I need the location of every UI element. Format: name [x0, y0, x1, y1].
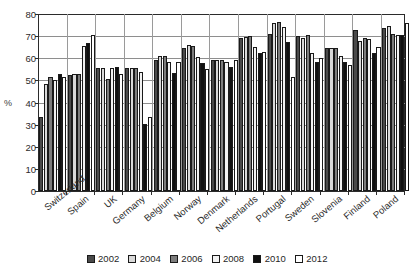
bar	[315, 62, 319, 191]
y-axis-tickmark	[35, 125, 39, 126]
bar	[239, 38, 243, 191]
y-axis-tick-labels: 01020304050607080	[0, 0, 36, 276]
bar-group	[381, 14, 410, 191]
bar	[353, 30, 357, 192]
bar	[391, 34, 395, 191]
bar-group	[352, 14, 381, 191]
bar	[296, 36, 300, 191]
bar	[167, 62, 171, 191]
legend-label: 2010	[265, 253, 286, 264]
legend-item[interactable]: 2008	[212, 253, 245, 264]
bar	[86, 43, 90, 191]
bar-group	[324, 14, 353, 191]
plot-area	[38, 14, 405, 192]
bar	[358, 41, 362, 191]
y-axis-tickmark	[35, 103, 39, 104]
bar-groups	[39, 14, 405, 191]
y-axis-tickmark	[35, 36, 39, 37]
bar	[363, 38, 367, 191]
bar	[68, 75, 72, 191]
bar-group	[39, 14, 67, 191]
bar	[301, 38, 305, 191]
bar	[191, 46, 195, 191]
bar	[115, 67, 119, 191]
bar	[82, 46, 86, 191]
bar	[220, 60, 224, 191]
legend-item[interactable]: 2006	[170, 253, 203, 264]
bar	[372, 53, 376, 191]
legend-item[interactable]: 2012	[295, 253, 328, 264]
legend-item[interactable]: 2004	[128, 253, 161, 264]
y-axis-tickmark	[35, 14, 39, 15]
legend-swatch-icon	[295, 255, 303, 263]
legend-swatch-icon	[128, 255, 136, 263]
bar-group	[67, 14, 96, 191]
bar	[306, 35, 310, 191]
bar-chart: % 01020304050607080 SwitzerlandSpainUKGe…	[0, 0, 414, 276]
bar	[44, 84, 48, 191]
bar	[101, 68, 105, 191]
bar	[229, 67, 233, 191]
bar	[334, 48, 338, 191]
bar	[343, 62, 347, 191]
bar	[387, 26, 391, 191]
y-axis-tickmark	[35, 80, 39, 81]
bar	[211, 60, 215, 191]
bar	[272, 23, 276, 191]
x-axis-tickmark	[404, 191, 405, 195]
bar	[400, 35, 404, 191]
bar	[182, 48, 186, 191]
y-axis-tick-label: 50	[8, 75, 36, 86]
bar	[125, 68, 129, 191]
legend-label: 2012	[306, 253, 327, 264]
bar	[154, 60, 158, 191]
y-axis-tick-label: 30	[8, 119, 36, 130]
bar	[282, 27, 286, 191]
bar	[53, 80, 57, 191]
bar	[143, 124, 147, 191]
bar-group	[181, 14, 210, 191]
bar	[286, 42, 290, 191]
bar	[248, 36, 252, 191]
y-axis-tick-label: 70	[8, 31, 36, 42]
bar	[367, 39, 371, 191]
bar-group	[209, 14, 238, 191]
bar	[310, 53, 314, 191]
legend-swatch-icon	[87, 255, 95, 263]
y-axis-tickmark	[35, 58, 39, 59]
x-axis-tick-labels: SwitzerlandSpainUKGermanyBelgiumNorwayDe…	[38, 193, 404, 251]
bar-group	[238, 14, 267, 191]
bar	[134, 68, 138, 191]
bar	[405, 23, 409, 191]
bar	[172, 73, 176, 191]
legend-item[interactable]: 2010	[253, 253, 286, 264]
legend-label: 2006	[181, 253, 202, 264]
bar	[96, 68, 100, 191]
bar-group	[152, 14, 181, 191]
bar	[325, 48, 329, 191]
bar	[224, 62, 228, 191]
y-axis-tick-label: 80	[8, 9, 36, 20]
bar	[268, 34, 272, 191]
bar-group	[124, 14, 153, 191]
y-axis-tickmark	[35, 147, 39, 148]
bar	[258, 53, 262, 191]
bar	[48, 77, 52, 191]
legend-swatch-icon	[170, 255, 178, 263]
legend-label: 2008	[223, 253, 244, 264]
x-axis-tick-label: Switzerland	[42, 193, 62, 213]
legend-label: 2004	[140, 253, 161, 264]
y-axis-tick-label: 40	[8, 97, 36, 108]
bar	[382, 28, 386, 191]
y-axis-tickmark	[35, 169, 39, 170]
y-axis-tick-label: 0	[8, 186, 36, 197]
bar	[163, 56, 167, 191]
bar	[253, 47, 257, 191]
bar-group	[95, 14, 124, 191]
bar	[244, 37, 248, 191]
legend-swatch-icon	[212, 255, 220, 263]
bar	[58, 74, 62, 191]
bar	[277, 22, 281, 191]
bar	[339, 56, 343, 191]
legend-item[interactable]: 2002	[87, 253, 120, 264]
